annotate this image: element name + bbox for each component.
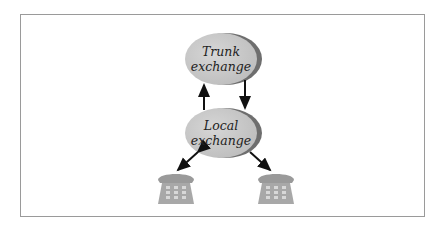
telephone-icon — [158, 174, 194, 204]
local-label-line1: Local — [185, 118, 257, 133]
trunk-exchange-label: Trunk exchange — [185, 44, 257, 74]
trunk-label-line1: Trunk — [185, 44, 257, 59]
arrow-local-to-phone1 — [178, 152, 198, 170]
local-exchange-label: Local exchange — [185, 118, 257, 148]
arrow-local-to-phone2 — [250, 152, 270, 170]
trunk-label-line2: exchange — [185, 59, 257, 74]
telephone-icon — [258, 174, 294, 204]
local-label-line2: exchange — [185, 133, 257, 148]
diagram-canvas — [0, 0, 446, 230]
